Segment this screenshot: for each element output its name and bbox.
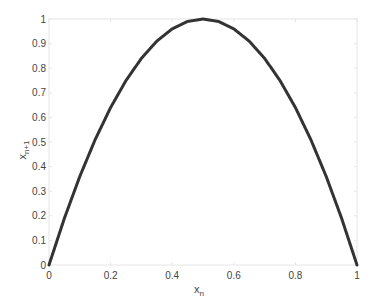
y-tick-label: 0.9	[32, 38, 46, 49]
x-axis-label-sub: n	[200, 289, 204, 298]
x-tick-label: 0.8	[288, 270, 302, 281]
y-tick-label: 0.6	[32, 112, 46, 123]
y-tick-label: 0.7	[32, 87, 46, 98]
x-tick-label: 0.4	[165, 270, 179, 281]
x-tick-label: 0	[46, 270, 52, 281]
x-tick-label: 0.2	[104, 270, 118, 281]
x-tick-label: 0.6	[227, 270, 241, 281]
y-axis-label: xn+1	[16, 140, 31, 160]
y-tick-label: 0.1	[32, 235, 46, 246]
y-axis-label-sub: n+1	[22, 140, 31, 154]
y-tick-label: 1	[40, 14, 46, 25]
y-tick-label: 0.3	[32, 186, 46, 197]
chart: 00.20.40.60.81 00.10.20.30.40.50.60.70.8…	[0, 0, 379, 306]
y-tick-label: 0	[40, 260, 46, 271]
x-axis-label: xn	[194, 283, 204, 298]
y-tick-label: 0.4	[32, 161, 46, 172]
y-tick-label: 0.2	[32, 210, 46, 221]
x-tick-label: 1	[354, 270, 360, 281]
y-tick-label: 0.8	[32, 63, 46, 74]
y-tick-label: 0.5	[32, 137, 46, 148]
